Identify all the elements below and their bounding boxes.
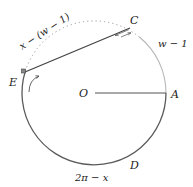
- label-arc-ce: x − (w − 1): [17, 11, 72, 52]
- label-arc-lower: 2π − x: [74, 172, 109, 183]
- circle-diagram: C E O A D w − 1 2π − x x − (w − 1): [0, 0, 193, 187]
- label-o: O: [79, 87, 88, 100]
- label-d: D: [129, 159, 139, 172]
- point-e-marker: [22, 69, 26, 73]
- arrow-right-near-c: [121, 33, 131, 37]
- curved-arrow-icon: [29, 76, 39, 92]
- arc-e-d-a: [22, 72, 166, 165]
- label-c: C: [130, 14, 139, 27]
- label-a: A: [170, 88, 179, 101]
- label-e: E: [8, 76, 17, 89]
- label-arc-ac: w − 1: [158, 38, 188, 49]
